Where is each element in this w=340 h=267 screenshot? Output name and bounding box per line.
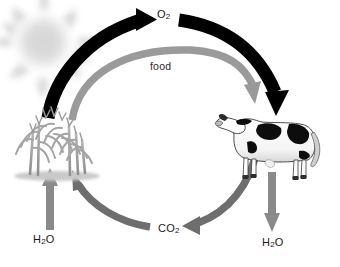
label-oxygen: O2 [157,9,170,21]
corn-plant [14,107,100,181]
cow [215,114,320,180]
label-water-right: H2O [262,237,284,249]
label-carbon-dioxide: CO2 [158,223,180,235]
photosynthesis-respiration-diagram: O2 food CO2 H2O H2O [0,0,340,267]
label-food: food [150,61,171,72]
water-output-arrow [264,172,280,232]
label-water-left: H2O [33,234,55,246]
